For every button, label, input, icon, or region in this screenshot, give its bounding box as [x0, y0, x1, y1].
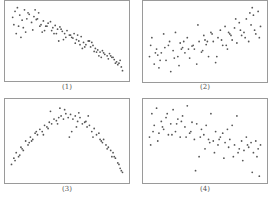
data-point	[198, 41, 200, 43]
data-point	[57, 28, 59, 30]
data-point	[54, 25, 56, 27]
data-point	[28, 142, 30, 144]
data-point	[183, 41, 185, 43]
data-point	[227, 48, 229, 50]
data-point	[98, 55, 100, 57]
data-point	[157, 140, 159, 142]
data-point	[111, 156, 113, 158]
data-point	[85, 44, 87, 46]
data-point	[39, 128, 41, 130]
data-point	[232, 156, 234, 158]
data-point	[21, 19, 23, 21]
data-point	[180, 121, 182, 123]
data-point	[99, 139, 101, 141]
data-point	[238, 148, 240, 150]
data-point	[99, 51, 101, 53]
data-point	[27, 12, 29, 14]
data-point	[59, 107, 61, 109]
data-point	[162, 126, 164, 128]
data-point	[20, 36, 22, 38]
data-point	[77, 121, 79, 123]
data-point	[170, 123, 172, 125]
data-point	[201, 51, 203, 53]
data-point	[76, 126, 78, 128]
data-point	[38, 12, 40, 14]
data-point	[254, 29, 256, 31]
data-point	[160, 121, 162, 123]
data-point	[149, 136, 151, 138]
data-point	[255, 33, 257, 35]
data-point	[188, 48, 190, 50]
data-point	[231, 39, 233, 41]
data-point	[41, 131, 43, 133]
data-point	[100, 56, 102, 58]
data-point	[219, 29, 221, 31]
data-point	[65, 113, 67, 115]
data-point	[170, 71, 172, 73]
data-point	[81, 48, 83, 50]
data-point	[250, 142, 252, 144]
data-point	[41, 31, 43, 33]
data-point	[245, 18, 247, 20]
data-point	[176, 123, 178, 125]
data-point	[168, 44, 170, 46]
data-point	[222, 44, 224, 46]
data-point	[21, 148, 23, 150]
data-point	[42, 20, 44, 22]
data-point	[81, 123, 83, 125]
data-point	[196, 123, 198, 125]
data-point	[97, 49, 99, 51]
data-point	[109, 53, 111, 55]
data-point	[102, 142, 104, 144]
data-point	[18, 156, 20, 158]
scatter-panel-1	[4, 0, 130, 82]
data-point	[152, 131, 154, 133]
data-point	[153, 124, 155, 126]
data-point	[175, 32, 177, 34]
data-point	[198, 156, 200, 158]
data-point	[258, 37, 260, 39]
data-point	[230, 35, 232, 37]
panel-label-3: (3)	[47, 185, 87, 193]
data-point	[258, 175, 260, 177]
data-point	[83, 42, 85, 44]
data-point	[257, 148, 259, 150]
data-point	[155, 52, 157, 54]
data-point	[50, 21, 52, 23]
data-point	[210, 32, 212, 34]
data-point	[15, 33, 17, 35]
data-point	[224, 26, 226, 28]
data-point	[151, 113, 153, 115]
data-point	[57, 123, 59, 125]
data-point	[184, 52, 186, 54]
data-point	[150, 144, 152, 146]
data-point	[25, 140, 27, 142]
data-point	[106, 148, 108, 150]
data-point	[53, 118, 55, 120]
data-point	[22, 149, 24, 151]
data-point	[63, 39, 65, 41]
data-point	[201, 128, 203, 130]
data-point	[231, 124, 233, 126]
data-point	[60, 115, 62, 117]
data-point	[55, 120, 57, 122]
data-point	[79, 44, 81, 46]
data-point	[98, 132, 100, 134]
data-point	[72, 118, 74, 120]
data-point	[107, 58, 109, 60]
data-point	[107, 146, 109, 148]
data-point	[256, 156, 258, 158]
data-point	[30, 136, 32, 138]
data-point	[228, 146, 230, 148]
data-point	[205, 44, 207, 46]
data-point	[224, 142, 226, 144]
data-point	[178, 65, 180, 67]
data-point	[215, 131, 217, 133]
data-point	[105, 144, 107, 146]
data-point	[120, 66, 122, 68]
data-point	[37, 134, 39, 136]
data-point	[122, 171, 124, 173]
data-point	[106, 55, 108, 57]
data-point	[65, 36, 67, 38]
data-point	[172, 50, 174, 52]
